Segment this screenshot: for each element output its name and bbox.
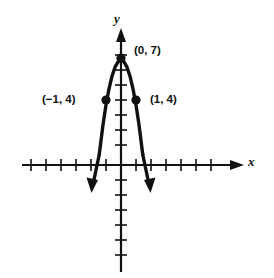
vertex-point-label: (0, 7) <box>134 45 161 57</box>
coordinate-plane-svg <box>0 0 274 278</box>
point-left <box>101 95 110 104</box>
point-right <box>131 95 140 104</box>
y-axis-label: y <box>114 12 120 25</box>
right-point-label: (1, 4) <box>150 94 177 106</box>
parabola-graph-figure: y x (0, 7) (−1, 4) (1, 4) <box>0 0 274 278</box>
left-point-label: (−1, 4) <box>42 94 76 106</box>
point-vertex <box>116 53 125 62</box>
x-axis-label: x <box>248 155 255 168</box>
